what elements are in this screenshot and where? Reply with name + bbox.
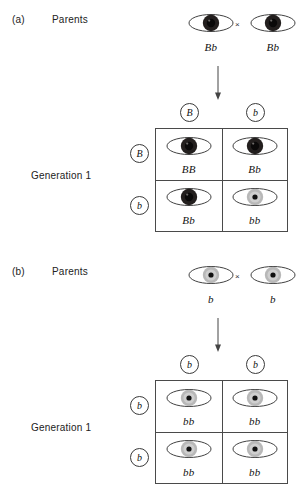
panel-b-parent-1-genotype: b bbox=[183, 293, 239, 305]
panel-b-gamete-top-2: b bbox=[246, 355, 265, 374]
panel-a-gamete-left-2: b bbox=[130, 196, 149, 215]
panel-b-gamete-left-1: b bbox=[130, 396, 149, 415]
panel-a-parent-2-genotype: Bb bbox=[245, 41, 301, 53]
eye-icon-blue bbox=[166, 387, 212, 409]
panel-b-parent-1: b bbox=[183, 264, 239, 305]
eye-icon-blue bbox=[232, 186, 278, 208]
punnett-cell-genotype: BB bbox=[182, 163, 196, 175]
eye-icon-brown bbox=[166, 186, 212, 208]
allele-label: b bbox=[253, 360, 258, 370]
allele-label: B bbox=[136, 149, 142, 159]
panel-a-tag: (a) bbox=[12, 14, 25, 25]
panel-a: (a) Parents Generation 1 Bb × bbox=[0, 0, 303, 252]
panel-a-generation-label: Generation 1 bbox=[31, 170, 91, 181]
allele-label: b bbox=[137, 201, 142, 211]
allele-label: b bbox=[137, 453, 142, 463]
punnett-cell: bb bbox=[222, 432, 288, 483]
punnett-cell-genotype: bb bbox=[183, 415, 195, 427]
panel-b-gamete-top-1: b bbox=[180, 355, 199, 374]
panel-a-parent-1: Bb bbox=[183, 12, 239, 53]
panel-b-gamete-left-2: b bbox=[130, 448, 149, 467]
panel-a-gamete-top-1: B bbox=[180, 103, 199, 122]
punnett-cell-genotype: Bb bbox=[182, 214, 195, 226]
panel-a-parent-1-genotype: Bb bbox=[183, 41, 239, 53]
punnett-cell: bb bbox=[222, 381, 288, 432]
punnett-cell-genotype: bb bbox=[249, 415, 261, 427]
panel-b-tag: (b) bbox=[12, 266, 25, 277]
panel-b-parents-label: Parents bbox=[52, 266, 88, 277]
eye-icon-brown bbox=[232, 135, 278, 157]
panel-b-generation-label: Generation 1 bbox=[31, 422, 91, 433]
punnett-cell-genotype: bb bbox=[183, 466, 195, 478]
punnett-cell: bb bbox=[156, 432, 222, 483]
eye-icon-brown bbox=[166, 135, 212, 157]
eye-icon-blue bbox=[245, 264, 301, 286]
eye-icon-blue bbox=[232, 387, 278, 409]
allele-label: b bbox=[137, 401, 142, 411]
panel-a-gamete-top-2: b bbox=[246, 103, 265, 122]
eye-icon-brown bbox=[183, 12, 239, 34]
panel-b-punnett-square: bb bb bbox=[155, 380, 288, 484]
panel-b-cross-symbol: × bbox=[235, 272, 240, 281]
panel-b: (b) Parents Generation 1 b × bbox=[0, 252, 303, 504]
punnett-cell: Bb bbox=[156, 180, 222, 231]
panel-a-gamete-left-1: B bbox=[130, 144, 149, 163]
eye-icon-blue bbox=[183, 264, 239, 286]
panel-a-parents-label: Parents bbox=[52, 14, 88, 25]
punnett-cell: BB bbox=[156, 129, 222, 180]
panel-a-cross-symbol: × bbox=[235, 20, 240, 29]
panel-a-parent-2: Bb bbox=[245, 12, 301, 53]
punnett-cell: bb bbox=[222, 180, 288, 231]
eye-icon-brown bbox=[245, 12, 301, 34]
down-arrow-icon bbox=[211, 318, 225, 352]
allele-label: b bbox=[253, 108, 258, 118]
eye-icon-blue bbox=[232, 438, 278, 460]
panel-b-parent-2-genotype: b bbox=[245, 293, 301, 305]
eye-icon-blue bbox=[166, 438, 212, 460]
panel-b-parent-2: b bbox=[245, 264, 301, 305]
punnett-cell: Bb bbox=[222, 129, 288, 180]
allele-label: b bbox=[187, 360, 192, 370]
punnett-cell-genotype: Bb bbox=[248, 163, 261, 175]
punnett-cell-genotype: bb bbox=[249, 214, 261, 226]
allele-label: B bbox=[186, 108, 192, 118]
punnett-cell-genotype: bb bbox=[249, 466, 261, 478]
panel-a-punnett-square: BB Bb bbox=[155, 128, 288, 232]
punnett-cell: bb bbox=[156, 381, 222, 432]
down-arrow-icon bbox=[211, 66, 225, 100]
